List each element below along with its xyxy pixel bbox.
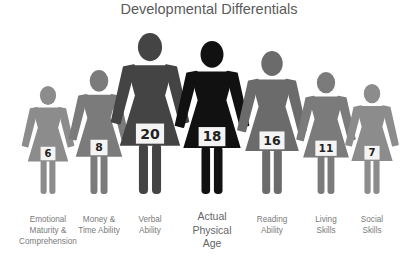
leg-shape <box>214 146 223 194</box>
leg-shape <box>201 146 210 194</box>
head-shape <box>364 84 381 103</box>
head-shape <box>201 41 224 68</box>
figure-label: Actual Physical Age <box>192 210 231 251</box>
leg-shape <box>364 159 370 194</box>
leg-shape <box>90 155 97 194</box>
person-figure <box>238 51 306 194</box>
person-figure <box>346 84 398 194</box>
value-text: 16 <box>263 133 281 148</box>
value-text: 7 <box>369 147 376 158</box>
value-text: 18 <box>203 129 222 144</box>
head-shape <box>90 70 109 92</box>
leg-shape <box>101 155 108 194</box>
person-figure <box>297 72 355 194</box>
figure-label: Emotional Maturity & Comprehension <box>19 214 77 247</box>
head-shape <box>138 33 162 61</box>
leg-shape <box>41 160 47 194</box>
head-shape <box>40 86 56 105</box>
head-shape <box>317 72 335 93</box>
person-figure <box>176 41 249 194</box>
figure-label: Reading Ability <box>257 214 288 236</box>
figure-label: Social Skills <box>361 214 383 236</box>
figure-label: Living Skills <box>315 214 336 236</box>
value-text: 20 <box>140 126 160 142</box>
figure-label: Money & Time Ability <box>78 214 120 236</box>
leg-shape <box>262 149 270 194</box>
leg-shape <box>274 149 282 194</box>
head-shape <box>261 51 282 76</box>
figure-label: Verbal Ability <box>138 214 161 236</box>
value-text: 11 <box>319 142 334 155</box>
leg-shape <box>152 144 161 194</box>
value-text: 8 <box>95 141 103 154</box>
value-text: 6 <box>45 148 52 159</box>
leg-shape <box>49 160 55 194</box>
leg-shape <box>373 159 379 194</box>
person-figure <box>112 33 188 194</box>
person-figure <box>22 86 73 194</box>
leg-shape <box>318 155 325 194</box>
leg-shape <box>139 144 148 194</box>
leg-shape <box>328 155 335 194</box>
